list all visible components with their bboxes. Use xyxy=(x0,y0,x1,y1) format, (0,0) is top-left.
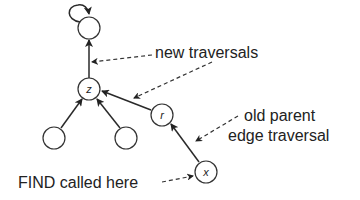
union-find-diagram: z r x new traversals old parent edge tra… xyxy=(0,0,360,200)
node-z: z xyxy=(78,78,100,100)
new-traversals-label: new traversals xyxy=(155,44,258,61)
edge-right-z xyxy=(97,99,120,128)
old-parent-label-line2: edge traversal xyxy=(228,127,329,144)
new-traversal-arrow-1 xyxy=(92,55,152,62)
node-root xyxy=(78,17,100,39)
edge-r-z xyxy=(102,91,151,110)
find-called-label: FIND called here xyxy=(18,174,138,191)
find-arrow xyxy=(162,176,193,182)
node-left-child xyxy=(43,127,65,149)
old-parent-label-line1: old parent xyxy=(244,107,316,124)
node-z-label: z xyxy=(85,83,92,95)
node-x: x xyxy=(195,161,217,183)
new-traversal-arrow-2 xyxy=(134,62,212,98)
node-x-label: x xyxy=(202,166,209,178)
node-right-child xyxy=(115,127,137,149)
node-r: r xyxy=(151,104,173,126)
edge-left-z xyxy=(61,99,82,128)
edge-x-r xyxy=(171,124,199,162)
